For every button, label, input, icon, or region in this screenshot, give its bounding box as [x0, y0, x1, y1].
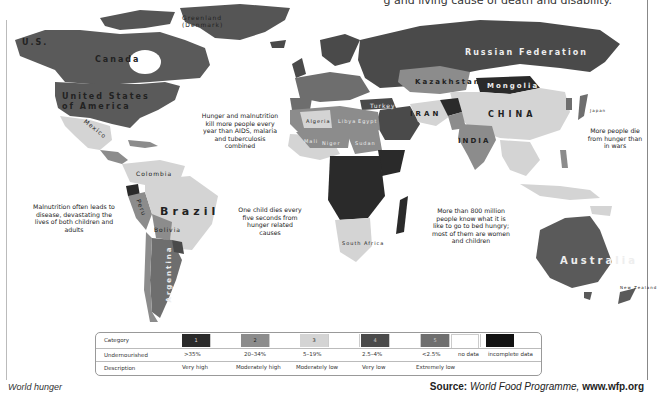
label-usa: United States of America	[62, 92, 162, 112]
figure-title: World hunger	[8, 382, 62, 392]
region-india	[458, 124, 496, 170]
label-india: INDIA	[458, 137, 490, 145]
legend-desc-cat3: Moderately low	[296, 364, 338, 370]
legend-row-undernourished: Undernourished >35% 20–34% 5–19% 2.5–4% …	[96, 348, 541, 362]
legend-swatch-cat5: 5	[421, 334, 449, 347]
legend-swatch-gap	[389, 334, 421, 347]
annotation-malnutrition-disease: Malnutrition often leads to disease, dev…	[30, 203, 118, 233]
label-kazakhstan: Kazakhstan	[415, 78, 481, 86]
region-indonesia	[520, 184, 600, 200]
label-japan: Japan	[590, 108, 606, 113]
legend-swatch-cat4: 4	[361, 334, 389, 347]
legend-value-cat4: 2.5–4%	[362, 351, 382, 357]
label-niger: Niger	[322, 140, 340, 146]
label-new-zealand: New Zealand	[620, 285, 657, 290]
legend-swatch-no-data	[451, 334, 479, 349]
label-iran: IRAN	[410, 110, 441, 118]
label-argentina: Argentina	[165, 245, 173, 302]
legend-label-category: Category	[104, 337, 129, 343]
region-central-africa	[328, 156, 385, 220]
region-central-america	[100, 150, 128, 164]
region-arctic-islands	[100, 10, 175, 30]
region-papua	[590, 206, 612, 216]
label-bolivia: Bolivia	[154, 226, 181, 233]
legend-label-undernourished: Undernourished	[104, 352, 148, 358]
region-western-europe	[295, 72, 370, 102]
region-korea	[566, 98, 572, 110]
legend-label-description: Description	[104, 365, 135, 371]
legend-swatch-cat3: 3	[300, 334, 328, 347]
label-russia: Russian Federation	[465, 48, 588, 57]
region-caribbean	[128, 140, 158, 148]
source-url-link[interactable]: www.wfp.org	[582, 381, 644, 392]
annotation-800-million: More than 800 million people know what i…	[430, 207, 512, 245]
region-japan	[578, 94, 588, 120]
legend-value-incomplete: incomplete data	[488, 351, 533, 357]
source-credit: Source: World Food Programme, www.wfp.or…	[430, 381, 644, 392]
region-uk	[292, 58, 306, 78]
legend-swatch-cat1: 1	[182, 334, 210, 347]
region-philippines	[560, 150, 568, 168]
label-us-alaska: U.S.	[22, 38, 48, 47]
region-iceland	[270, 40, 286, 48]
region-horn-of-africa	[378, 150, 405, 176]
legend-swatch-incomplete	[486, 334, 514, 347]
label-mali: Mali	[304, 138, 318, 144]
label-canada: Canada	[95, 55, 141, 64]
annotation-hunger-vs-wars: More people die from hunger than in wars	[585, 127, 645, 150]
map-legend: Category 1 2 3 4 5 Undernourished >35% 2…	[95, 332, 542, 376]
region-se-asia	[500, 140, 540, 176]
label-egypt: Egypt	[358, 118, 377, 124]
legend-desc-cat4: Very low	[362, 364, 385, 370]
legend-row-description: Description Very high Moderately high Mo…	[96, 361, 541, 375]
region-australia	[536, 216, 612, 288]
region-new-zealand	[618, 288, 636, 304]
region-tasmania	[584, 292, 592, 300]
legend-swatch-gap	[328, 334, 360, 347]
legend-value-cat1: >35%	[184, 351, 201, 357]
label-australia: Australia	[560, 255, 638, 266]
legend-value-cat5: <2.5%	[422, 351, 441, 357]
annotation-child-dies: One child dies every five seconds from h…	[238, 206, 302, 236]
legend-desc-cat1: Very high	[182, 364, 208, 370]
legend-row-category: Category 1 2 3 4 5	[96, 334, 541, 347]
legend-desc-cat2: Moderately high	[236, 364, 281, 370]
legend-swatch-cat2: 2	[241, 334, 269, 347]
label-mongolia: Mongolia	[487, 82, 539, 90]
label-south-africa: South Africa	[342, 240, 384, 246]
source-name: World Food Programme,	[470, 381, 579, 392]
legend-value-cat3: 5–19%	[303, 351, 321, 357]
label-colombia: Colombia	[136, 170, 172, 177]
legend-value-no-data: no data	[458, 351, 479, 357]
label-greenland: Greenland (Denmark)	[182, 14, 216, 28]
label-turkey: Turkey	[370, 102, 396, 109]
label-china: CHINA	[488, 110, 536, 119]
legend-desc-cat5: Extremely low	[416, 364, 455, 370]
label-algeria: Algeria	[306, 118, 331, 124]
legend-swatch-gap	[269, 334, 301, 347]
legend-value-cat2: 20–34%	[244, 351, 266, 357]
region-iberia	[290, 98, 312, 110]
region-scandinavia	[320, 34, 360, 66]
legend-swatch-gap	[210, 334, 242, 347]
label-sudan: Sudan	[355, 140, 376, 146]
source-label: Source:	[430, 381, 467, 392]
region-madagascar	[396, 196, 408, 234]
annotation-hunger-kills: Hunger and malnutrition kill more people…	[200, 112, 280, 150]
label-brazil: Brazil	[160, 205, 219, 218]
label-libya: Libya	[338, 118, 356, 124]
